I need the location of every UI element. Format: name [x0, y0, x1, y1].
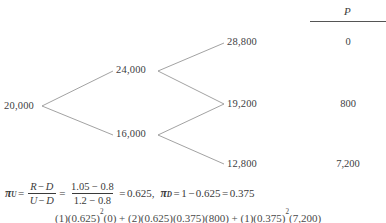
pi-d-subscript: D [167, 192, 172, 199]
edge-down-down [158, 135, 224, 164]
numeric-fraction: 1.05 − 0.8 1.2 − 0.8 [69, 181, 116, 206]
general-num-left: R [30, 181, 36, 192]
payoff-column-rule [310, 21, 386, 22]
pi-u-subscript: U [11, 192, 16, 199]
edge-up-up [158, 43, 224, 71]
expr-part-1: (1)(0.625) [55, 212, 100, 223]
risk-neutral-probability-formula: πU = R−D U−D = 1.05 − 0.8 1.2 − 0.8 = 0.… [5, 181, 255, 206]
numeric-numerator: 1.05 − 0.8 [69, 181, 116, 193]
payoff-value-0: 0 [328, 37, 368, 48]
tree-node-up-up: 28,800 [227, 37, 257, 48]
figure-page: 20,000 24,000 16,000 28,800 19,200 12,80… [0, 0, 386, 223]
payoff-column-header: P [344, 6, 351, 17]
expr-part-2: (0) + (2)(0.625)(0.375)(800) + (1)(0.375… [104, 212, 286, 223]
general-num-minus: − [38, 181, 44, 192]
pi-u-value: 0.625 [127, 188, 152, 199]
general-den-right: D [46, 195, 54, 206]
pi-d-subtrahend: 0.625 [196, 188, 221, 199]
edge-up-down [158, 71, 224, 104]
general-fraction: R−D U−D [28, 181, 56, 206]
equals-sign-1: = [18, 188, 24, 199]
equals-sign-4: = [173, 188, 179, 199]
pi-d-value: 0.375 [230, 188, 255, 199]
edge-down-up [158, 104, 224, 135]
pi-d-rhs-one: 1 [181, 188, 187, 199]
numeric-denominator: 1.2 − 0.8 [72, 193, 113, 206]
tree-node-up: 24,000 [116, 65, 146, 76]
expr-exponent-2: 2 [285, 208, 289, 216]
expected-payoff-expression: (1)(0.625)2(0) + (2)(0.625)(0.375)(800) … [55, 212, 321, 223]
tree-node-down-down: 12,800 [227, 159, 257, 170]
payoff-value-1: 800 [328, 99, 368, 110]
expr-exponent-1: 2 [100, 208, 104, 216]
tree-node-up-down: 19,200 [227, 99, 257, 110]
general-num-right: D [46, 181, 54, 192]
general-denominator: U−D [28, 193, 56, 206]
equals-sign-2: = [59, 188, 65, 199]
general-den-left: U [30, 195, 38, 206]
equals-sign-3: = [119, 188, 125, 199]
equals-sign-5: = [222, 188, 228, 199]
expr-part-3: (7,200) [289, 212, 321, 223]
general-numerator: R−D [28, 181, 55, 193]
general-den-minus: − [39, 195, 45, 206]
edge-root-up [42, 71, 113, 106]
formula-comma: , [152, 188, 155, 199]
edge-root-down [42, 106, 113, 135]
pi-d-minus: − [188, 188, 194, 199]
tree-node-down: 16,000 [116, 129, 146, 140]
payoff-value-2: 7,200 [328, 159, 368, 170]
tree-node-root: 20,000 [4, 101, 34, 112]
